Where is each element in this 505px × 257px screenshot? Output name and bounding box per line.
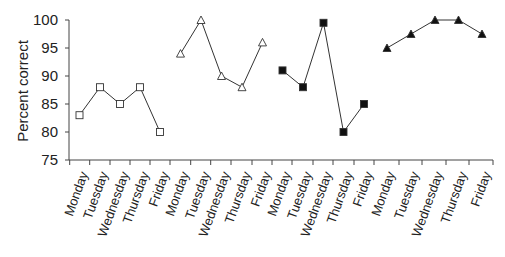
series-layer [76,16,486,136]
open-square-marker [137,84,144,91]
filled-triangle-marker [478,30,486,38]
open-triangle-marker [177,50,185,58]
series-line [387,20,482,48]
series-3 [279,19,368,135]
y-tick-label: 100 [18,11,58,28]
open-triangle-marker [218,72,226,80]
x-axis [69,160,493,165]
series-1 [76,84,164,136]
filled-square-marker [340,129,347,136]
filled-triangle-marker [407,30,415,38]
open-square-marker [76,112,83,119]
series-line [283,23,365,132]
y-tick-label: 75 [18,151,58,168]
y-tick-label: 85 [18,95,58,112]
open-square-marker [117,101,124,108]
filled-square-marker [320,19,327,26]
y-axis [65,20,69,160]
filled-square-marker [300,84,307,91]
open-square-marker [97,84,104,91]
filled-square-marker [361,101,368,108]
y-tick-label: 95 [18,39,58,56]
y-tick-label: 90 [18,67,58,84]
y-tick-label: 80 [18,123,58,140]
filled-triangle-marker [383,44,391,52]
open-square-marker [157,129,164,136]
open-triangle-marker [197,16,205,24]
series-4 [383,16,486,52]
filled-square-marker [279,67,286,74]
series-2 [177,16,267,91]
open-triangle-marker [238,83,246,91]
open-triangle-marker [259,38,267,46]
series-line [80,87,161,132]
